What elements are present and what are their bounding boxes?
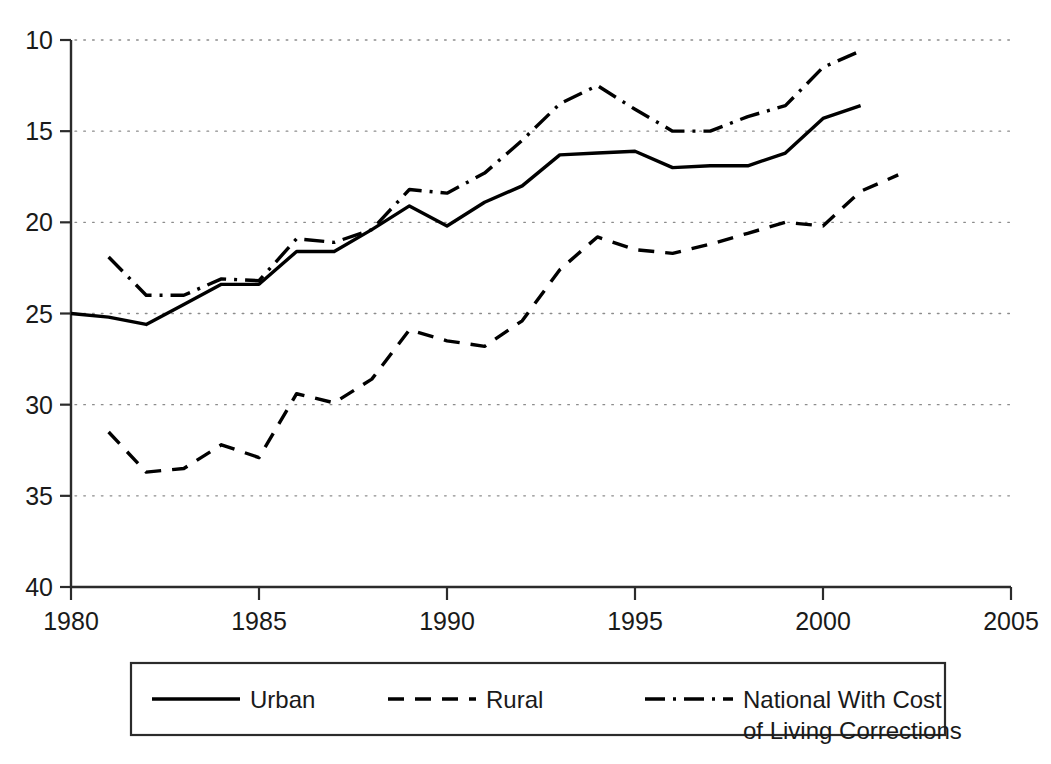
x-tick-label: 2000 <box>795 607 851 635</box>
legend-label-line2: of Living Corrections <box>743 717 962 744</box>
x-tick-label: 1990 <box>419 607 475 635</box>
y-tick-label: 20 <box>25 208 53 236</box>
y-tick-label: 30 <box>25 391 53 419</box>
x-tick-label: 2005 <box>983 607 1039 635</box>
legend-label: National With Cost <box>743 686 942 713</box>
y-tick-label: 40 <box>25 573 53 601</box>
x-tick-label: 1985 <box>231 607 287 635</box>
chart-background <box>0 0 1051 764</box>
y-tick-label: 10 <box>25 26 53 54</box>
legend-label: Rural <box>486 686 543 713</box>
legend-label: Urban <box>250 686 315 713</box>
y-tick-label: 15 <box>25 117 53 145</box>
x-tick-label: 1980 <box>43 607 99 635</box>
line-chart: 40353025201510 198019851990199520002005 … <box>0 0 1051 764</box>
y-tick-label: 25 <box>25 300 53 328</box>
x-tick-label: 1995 <box>607 607 663 635</box>
chart-figure: 40353025201510 198019851990199520002005 … <box>0 0 1051 764</box>
y-tick-label: 35 <box>25 482 53 510</box>
chart-legend: UrbanRuralNational With Costof Living Co… <box>131 663 962 744</box>
